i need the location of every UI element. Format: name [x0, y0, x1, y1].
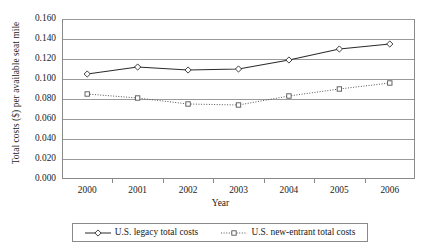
legend-swatch-new-entrant-line-icon — [221, 228, 247, 238]
chart-legend: U.S. legacy total costs U.S. new-entrant… — [72, 223, 368, 242]
x-axis-tick-label: 2006 — [365, 185, 415, 196]
x-axis-tick-label: 2005 — [314, 185, 364, 196]
gridline — [63, 119, 414, 120]
gridline — [63, 99, 414, 100]
legend-label-new-entrant: U.S. new-entrant total costs — [251, 227, 355, 238]
legend-swatch-legacy-line-icon — [85, 228, 111, 238]
legend-item-legacy[interactable]: U.S. legacy total costs — [85, 227, 199, 238]
gridline — [63, 139, 414, 140]
y-axis-tick-label: 0.100 — [12, 74, 56, 83]
y-axis-tick-label: 0.120 — [12, 54, 56, 63]
y-axis-tick-label: 0.160 — [12, 14, 56, 23]
chart-figure: Total costs ($) per available seat mile … — [0, 0, 441, 251]
legend-label-legacy: U.S. legacy total costs — [115, 227, 199, 238]
x-axis-tick — [314, 179, 315, 183]
gridline — [63, 19, 414, 20]
x-axis-tick — [112, 179, 113, 183]
gridline — [63, 159, 414, 160]
y-axis-tick-label: 0.040 — [12, 134, 56, 143]
x-axis-tick — [213, 179, 214, 183]
plot-area — [62, 19, 415, 179]
y-axis-tick-label: 0.060 — [12, 114, 56, 123]
x-axis-tick-label: 2001 — [113, 185, 163, 196]
gridline — [63, 39, 414, 40]
y-axis-tick-label: 0.140 — [12, 34, 56, 43]
x-axis-tick — [264, 179, 265, 183]
y-axis-tick-label: 0.080 — [12, 94, 56, 103]
x-axis-tick-label: 2002 — [163, 185, 213, 196]
gridline — [63, 79, 414, 80]
y-axis-tick-label: 0.000 — [12, 174, 56, 183]
x-axis-tick-label: 2004 — [264, 185, 314, 196]
x-axis-tick — [365, 179, 366, 183]
y-axis-tick-label: 0.020 — [12, 154, 56, 163]
legend-item-new-entrant[interactable]: U.S. new-entrant total costs — [221, 227, 355, 238]
gridline — [63, 59, 414, 60]
x-axis-tick — [163, 179, 164, 183]
x-axis-tick-label: 2003 — [214, 185, 264, 196]
x-axis-tick-label: 2000 — [62, 185, 112, 196]
x-axis-title: Year — [0, 198, 441, 209]
